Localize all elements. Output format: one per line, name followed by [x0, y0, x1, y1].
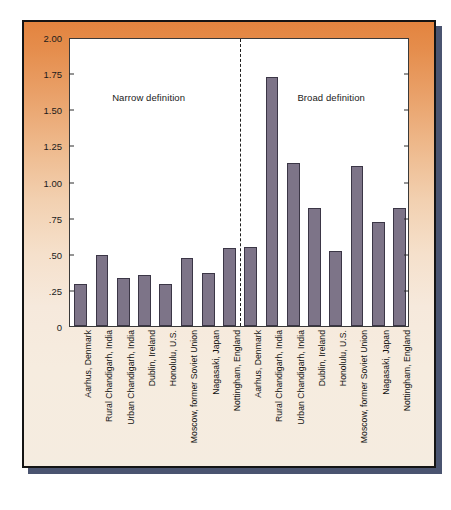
y-tick-mark	[69, 110, 74, 111]
x-tick-label: Aarhus, Denmark	[83, 330, 93, 398]
y-tick-label: 2.00	[44, 33, 63, 44]
bar	[202, 273, 215, 326]
bar	[96, 255, 109, 326]
plot-area: Narrow definitionBroad definition	[69, 38, 409, 327]
y-tick-label: .50	[49, 249, 62, 260]
bar	[329, 251, 342, 326]
y-tick-label: 1.50	[44, 105, 63, 116]
x-tick-label: Moscow, former Soviet Union	[359, 330, 369, 443]
y-tick-mark	[69, 182, 74, 183]
x-tick-label: Honolulu, U.S.	[338, 330, 348, 386]
x-tick-label: Honolulu, U.S.	[168, 330, 178, 386]
y-tick-mark	[69, 218, 74, 219]
y-tick-label: 1.00	[44, 177, 63, 188]
x-tick-label: Rural Chandigarh, India	[104, 330, 114, 422]
x-tick-label: Nottingham, England	[402, 330, 412, 411]
y-tick-label: 0	[57, 322, 62, 333]
y-tick-label: 1.25	[44, 141, 63, 152]
narrow-definition-label: Narrow definition	[112, 92, 185, 103]
x-axis-labels: Aarhus, DenmarkRural Chandigarh, IndiaUr…	[69, 330, 409, 465]
bar	[308, 208, 321, 326]
broad-definition-label: Broad definition	[297, 92, 365, 103]
bar	[266, 77, 279, 326]
y-tick-mark-right	[404, 218, 409, 219]
x-tick-label: Dublin, Ireland	[147, 330, 157, 386]
x-tick-label: Aarhus, Denmark	[253, 330, 263, 398]
bar	[223, 248, 236, 326]
bar	[117, 278, 130, 326]
chart-page: Lifetime morbid risk (in percents) 2.001…	[0, 0, 451, 510]
x-tick-label: Rural Chandigarh, India	[274, 330, 284, 422]
y-tick-mark	[69, 146, 74, 147]
bar	[74, 284, 87, 326]
bar	[351, 166, 364, 326]
y-tick-mark	[69, 290, 74, 291]
y-tick-mark-right	[404, 110, 409, 111]
y-tick-label: 1.75	[44, 69, 63, 80]
y-tick-mark-right	[404, 74, 409, 75]
figure-frame: Lifetime morbid risk (in percents) 2.001…	[22, 20, 436, 468]
y-tick-mark-right	[404, 254, 409, 255]
y-axis-ticks: 2.001.751.501.251.00.75.50.250	[24, 22, 69, 466]
bar	[393, 208, 406, 326]
y-tick-mark-right	[404, 146, 409, 147]
x-tick-label: Urban Chandigarh, India	[296, 330, 306, 425]
y-tick-mark	[69, 254, 74, 255]
bar	[372, 222, 385, 326]
y-tick-mark-right	[404, 290, 409, 291]
bar	[181, 258, 194, 326]
bars-layer: Narrow definitionBroad definition	[70, 39, 408, 326]
y-tick-label: .75	[49, 213, 62, 224]
y-tick-label: .25	[49, 285, 62, 296]
bar	[244, 247, 257, 326]
x-tick-label: Nagasaki, Japan	[211, 330, 221, 395]
x-tick-label: Dublin, Ireland	[317, 330, 327, 386]
group-divider-line	[240, 39, 241, 326]
y-tick-mark	[69, 74, 74, 75]
x-tick-label: Urban Chandigarh, India	[126, 330, 136, 425]
x-tick-label: Nagasaki, Japan	[381, 330, 391, 395]
bar	[287, 163, 300, 326]
y-tick-mark-right	[404, 182, 409, 183]
x-tick-label: Nottingham, England	[232, 330, 242, 411]
bar	[159, 284, 172, 326]
bar	[138, 275, 151, 326]
x-tick-label: Moscow, former Soviet Union	[189, 330, 199, 443]
